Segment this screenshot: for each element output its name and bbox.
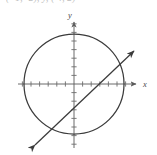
circle-and-line-diagram: x y bbox=[0, 0, 157, 155]
figure-container: ( -1, -2), y, ( 4, 2) bbox=[0, 0, 157, 155]
diagonal-line bbox=[35, 51, 134, 145]
x-axis-label: x bbox=[142, 79, 147, 89]
y-axis-label: y bbox=[67, 10, 72, 20]
axes-group: x y bbox=[18, 10, 147, 148]
